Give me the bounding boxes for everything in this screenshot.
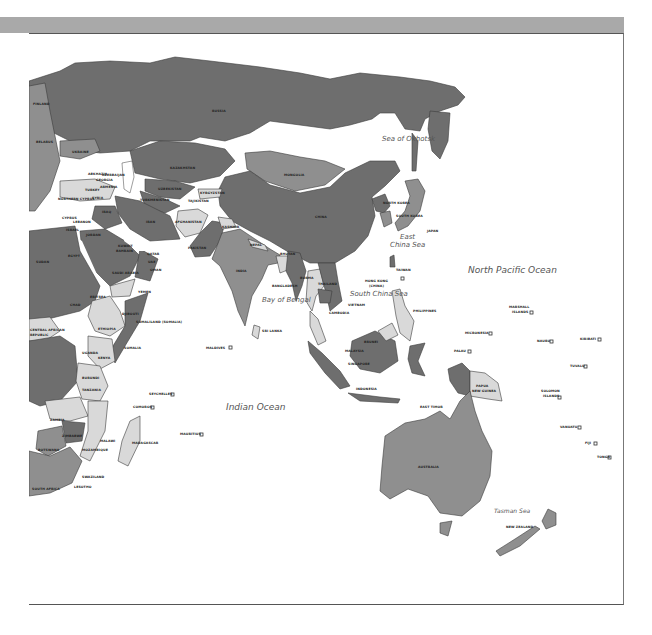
region-ukraine	[60, 139, 100, 159]
label-swaziland: SWAZILAND	[82, 475, 105, 479]
label-uganda: UGANDA	[82, 351, 98, 355]
label-afghanistan: AFGHANISTAN	[175, 220, 202, 224]
marker-maldives	[229, 346, 232, 349]
label-maldives: MALDIVES	[206, 346, 226, 350]
region-tanzania	[76, 363, 108, 401]
label-car2: REPUBLIC	[30, 333, 49, 337]
label-vanuatu: VANUATU	[560, 425, 578, 429]
sea-indian: Indian Ocean	[226, 402, 286, 412]
label-japan: JAPAN	[426, 229, 439, 233]
label-eritrea: ERITREA	[90, 295, 106, 299]
label-seychelles: SEYCHELLES	[149, 392, 173, 396]
label-fiji: FIJI	[585, 441, 591, 445]
region-sulawesi	[408, 343, 425, 376]
sea-north-pacific: North Pacific Ocean	[468, 265, 557, 275]
region-zimbabwe	[62, 421, 85, 443]
label-armenia: ARMENIA	[100, 185, 118, 189]
label-south-africa: SOUTH AFRICA	[32, 487, 60, 491]
label-china: CHINA	[315, 215, 327, 219]
label-turkmenistan: TURKMENISTAN	[140, 198, 170, 202]
label-brunei: BRUNEI	[364, 340, 378, 344]
label-taiwan: TAIWAN	[396, 268, 411, 272]
label-pakistan: PAKISTAN	[188, 246, 207, 250]
label-marshall: MARSHALL	[509, 305, 529, 309]
marker-hong-kong	[401, 277, 404, 280]
label-burundi: BURUNDI	[82, 376, 99, 380]
region-west-papua	[448, 363, 470, 396]
region-caspian	[122, 161, 134, 193]
map-frame: Sea of Okhotsk East China Sea North Paci…	[29, 33, 624, 605]
label-mauritius: MAURITIUS	[180, 432, 202, 436]
label-kashmir: KASHMIR	[222, 225, 240, 229]
label-cambodia: CAMBODIA	[329, 311, 350, 315]
marker-micronesia	[489, 332, 492, 335]
header-bar	[0, 17, 624, 33]
label-egypt: EGYPT	[68, 254, 81, 258]
marker-vanuatu	[578, 426, 581, 429]
label-iran: IRAN	[146, 220, 155, 224]
region-congo	[29, 336, 78, 406]
label-australia: AUSTRALIA	[418, 465, 439, 469]
label-kyrgyzstan: KYRGYZSTAN	[200, 191, 225, 195]
label-ethiopia: ETHIOPIA	[98, 327, 116, 331]
label-car: CENTRAL AFRICAN	[30, 328, 65, 332]
marker-nauru	[550, 340, 553, 343]
region-india	[212, 229, 280, 326]
label-zambia: ZAMBIA	[50, 418, 65, 422]
region-sumatra	[308, 341, 350, 389]
label-micronesia: MICRONESIA	[465, 331, 489, 335]
label-zimbabwe: ZIMBABWE	[62, 434, 82, 438]
label-somaliland: SOMALILAND (SOMALIA)	[136, 320, 182, 324]
label-georgia: GEORGIA	[96, 178, 113, 182]
label-new-guinea: NEW GUINEA	[472, 389, 497, 393]
sea-east-china-2: China Sea	[390, 241, 425, 249]
marker-marshall	[530, 311, 533, 314]
label-botswana: BOTSWANA	[38, 448, 60, 452]
label-tanzania: TANZANIA	[82, 388, 101, 392]
region-taiwan	[390, 255, 395, 267]
label-singapore: SINGAPORE	[348, 362, 370, 366]
label-palau: PALAU	[454, 349, 466, 353]
label-uae: UAE	[148, 260, 155, 264]
region-java	[348, 393, 400, 403]
label-madagascar: MADAGASCAR	[132, 441, 159, 445]
label-kiribati: KIRIBATI	[580, 337, 596, 341]
label-ukraine: UKRAINE	[72, 150, 89, 154]
label-malaysia: MALAYSIA	[345, 349, 364, 353]
label-chad: CHAD	[70, 303, 81, 307]
label-qatar: QATAR	[147, 252, 160, 256]
label-burma: BURMA	[300, 276, 314, 280]
label-malawi: MALAWI	[100, 439, 115, 443]
label-india: INDIA	[236, 269, 247, 273]
label-papua: PAPUA	[476, 384, 489, 388]
label-yemen: YEMEN	[137, 290, 151, 294]
label-turkey: TURKEY	[85, 188, 100, 192]
region-south-korea	[380, 211, 392, 227]
label-tajikistan: TAJIKISTAN	[188, 199, 209, 203]
sea-tasman: Tasman Sea	[494, 507, 531, 514]
region-sri-lanka	[252, 325, 260, 339]
region-kazakhstan	[130, 141, 235, 183]
label-south-korea: SOUTH KOREA	[396, 214, 423, 218]
label-saudi-arabia: SAUDI ARABIA	[112, 271, 139, 275]
sea-south-china: South China Sea	[350, 290, 408, 298]
label-kuwait: KUWAIT	[118, 244, 134, 248]
region-cambodia	[318, 289, 332, 303]
label-iraq: IRAQ	[102, 210, 111, 214]
label-somalia: SOMALIA	[124, 346, 141, 350]
marker-palau	[468, 350, 471, 353]
label-bahrain: BAHRAIN	[116, 249, 133, 253]
label-solomon: SOLOMON	[541, 389, 560, 393]
label-sri-lanka: SRI LANKA	[262, 329, 282, 333]
sea-bengal: Bay of Bengal	[262, 296, 311, 304]
label-belarus: BELARUS	[36, 140, 54, 144]
label-tuvalu: TUVALU	[570, 364, 585, 368]
region-australia	[380, 391, 492, 516]
label-kenya: KENYA	[98, 356, 111, 360]
label-northern-cyprus: NORTHERN CYPRUS	[58, 197, 95, 201]
region-malaysia	[310, 311, 326, 345]
label-hong-kong-sub: (CHINA)	[369, 284, 384, 288]
label-russia: RUSSIA	[212, 109, 226, 113]
sea-okhotsk: Sea of Okhotsk	[382, 135, 436, 143]
label-sudan: SUDAN	[36, 260, 49, 264]
